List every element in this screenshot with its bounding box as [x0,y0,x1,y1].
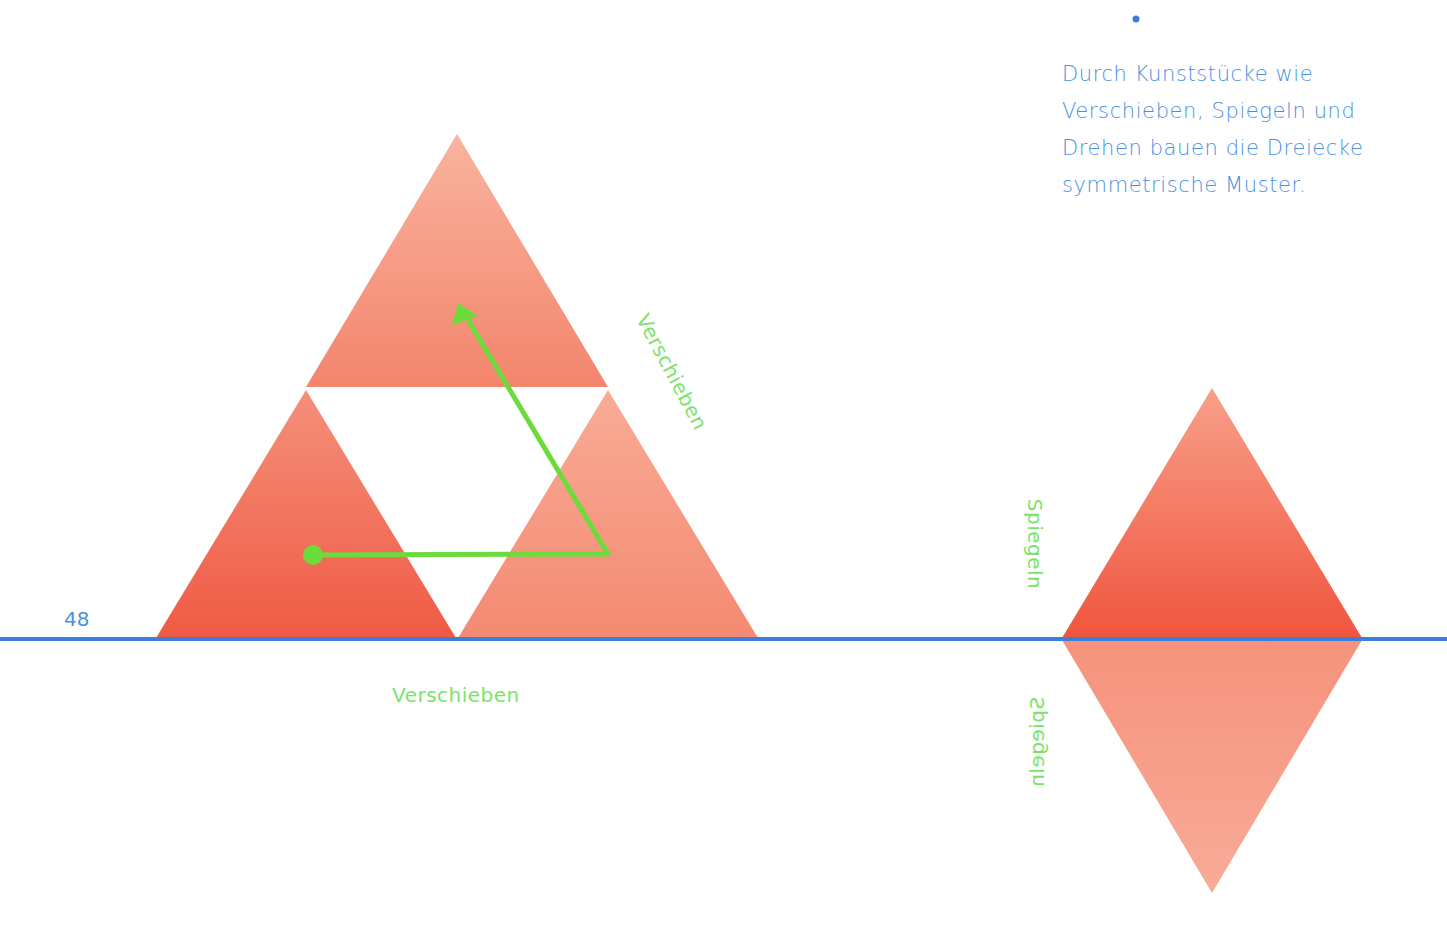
caption-text: Durch Kunststücke wie Verschieben, Spieg… [1062,56,1422,204]
caption-line: Verschieben, Spiegeln und [1062,93,1422,130]
label-mirror-lower: Spiegeln [1025,697,1049,787]
label-translate-bottom: Verschieben [392,683,520,707]
label-mirror-upper: Spiegeln [1023,499,1047,589]
triangle-mirror-lower [1062,640,1362,893]
page-number: 48 [64,607,89,631]
triangle-bottom-left [156,390,456,638]
triangle-top [306,134,608,387]
caption-line: Drehen bauen die Dreiecke [1062,130,1422,167]
bullet-dot [1133,16,1140,23]
triangle-mirror-upper [1062,388,1362,638]
caption-line: symmetrische Muster. [1062,167,1422,204]
caption-line: Durch Kunststücke wie [1062,56,1422,93]
triangle-bottom-right [458,390,758,638]
